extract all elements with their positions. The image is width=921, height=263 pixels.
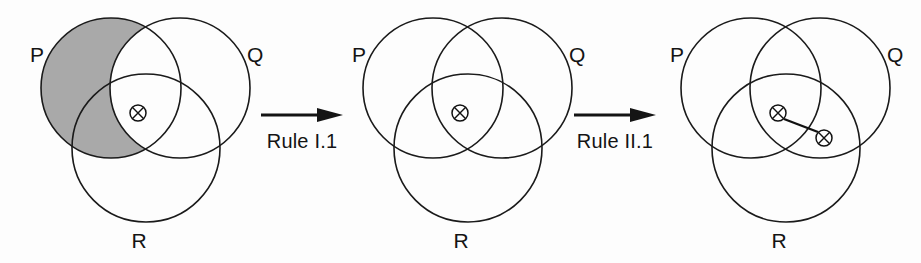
venn-diagram-1: P Q R — [8, 0, 271, 263]
set-label-q: Q — [887, 43, 903, 66]
venn-panel-3: P Q R — [648, 0, 911, 263]
shaded-region-p-minus-q — [8, 0, 271, 263]
set-label-p: P — [30, 43, 44, 66]
x-mark-center — [452, 105, 468, 121]
set-label-r: R — [771, 229, 786, 252]
right-arrow-icon — [572, 105, 658, 125]
x-mark-center — [130, 105, 146, 121]
venn-diagram-2: P Q R — [330, 0, 593, 263]
set-label-p: P — [352, 43, 366, 66]
set-label-r: R — [131, 229, 146, 252]
venn-transformation-figure: P Q R Rule I.1 P Q R — [0, 0, 921, 263]
venn-panel-1: P Q R — [8, 0, 271, 263]
x-mark-qr — [816, 130, 832, 146]
venn-diagram-3: P Q R — [648, 0, 911, 263]
circle-q — [432, 18, 572, 158]
circle-p — [681, 18, 821, 158]
circle-p — [363, 18, 503, 158]
x-mark-center — [770, 105, 786, 121]
set-label-p: P — [670, 43, 684, 66]
venn-panel-2: P Q R — [330, 0, 593, 263]
set-label-r: R — [453, 229, 468, 252]
